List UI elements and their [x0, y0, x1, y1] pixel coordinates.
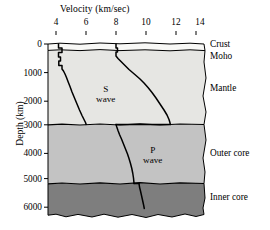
- seismic-velocity-depth-figure: Velocity (km/sec) Depth (km) 4 6 8 10 12…: [0, 0, 270, 230]
- y-tick-label-1000: 1000: [0, 68, 42, 78]
- layer-label-moho: Moho: [210, 51, 232, 61]
- x-tick-label-8: 8: [114, 17, 119, 27]
- y-axis-ticks: [44, 44, 48, 207]
- p-wave-label-line1: P: [143, 145, 162, 155]
- x-tick-label-14: 14: [195, 17, 204, 27]
- x-axis-title: Velocity (km/sec): [60, 3, 130, 14]
- s-wave-label: S wave: [96, 84, 115, 104]
- p-wave-label-line2: wave: [143, 155, 162, 165]
- layer-label-outer-core: Outer core: [210, 148, 250, 158]
- s-wave-label-line1: S: [96, 84, 115, 94]
- x-axis-ticks: [56, 31, 196, 35]
- y-tick-label-0: 0: [0, 39, 42, 49]
- y-tick-label-2000: 2000: [0, 96, 42, 106]
- x-tick-label-10: 10: [141, 17, 150, 27]
- layer-label-crust: Crust: [210, 39, 230, 49]
- layer-fill-mantle: [48, 50, 206, 125]
- layer-label-inner-core: Inner core: [210, 192, 248, 202]
- p-wave-label: P wave: [143, 145, 162, 165]
- x-tick-label-4: 4: [54, 17, 59, 27]
- y-tick-label-4000: 4000: [0, 148, 42, 158]
- s-wave-label-line2: wave: [96, 94, 115, 104]
- y-tick-label-6000: 6000: [0, 202, 42, 212]
- layer-fill-inner-core: [48, 183, 205, 218]
- y-tick-label-5000: 5000: [0, 174, 42, 184]
- x-tick-label-6: 6: [84, 17, 89, 27]
- x-tick-label-12: 12: [171, 17, 180, 27]
- y-tick-label-3000: 3000: [0, 120, 42, 130]
- layer-label-mantle: Mantle: [210, 83, 236, 93]
- boundary-surface: [48, 43, 204, 44]
